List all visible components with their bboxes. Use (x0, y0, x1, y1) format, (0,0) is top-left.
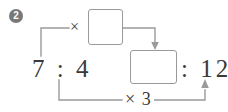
answer-box-bottom[interactable] (130, 50, 177, 84)
multiply-operator-top: × (70, 19, 79, 35)
arrowhead-down-icon (151, 42, 159, 50)
left-ratio-text: 7 : 4 (32, 56, 91, 81)
right-ratio-text: : 12 (181, 56, 228, 81)
answer-box-top[interactable] (88, 9, 123, 45)
multiply-operator-bottom: × 3 (123, 90, 154, 108)
connector-bottom-right-segment (154, 90, 205, 100)
connector-top-box-to-bottom-box (123, 28, 155, 44)
problem-number-badge: 2 (9, 9, 23, 23)
worksheet-diagram: 2 × 7 : 4 : 12 × 3 (0, 0, 228, 112)
connector-left-up-to-multiply (41, 28, 69, 56)
connector-bottom-left-segment (59, 80, 122, 100)
